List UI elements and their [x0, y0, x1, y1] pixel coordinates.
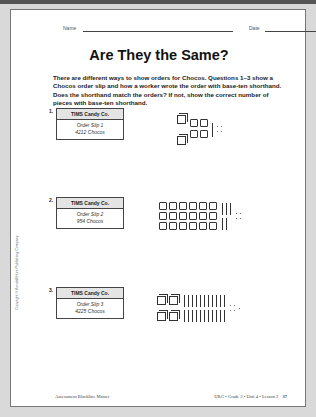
flat-icon — [159, 222, 167, 230]
bit-icon — [230, 305, 231, 306]
stick-icon — [200, 295, 201, 307]
footer-course: URG • Grade 3 • Unit 4 • Lesson 2 — [214, 394, 278, 399]
flat-icon — [159, 202, 167, 210]
flat-icon — [190, 119, 198, 127]
flat-icon — [179, 212, 187, 220]
page-title: Are They the Same? — [11, 47, 307, 63]
bit-icon — [240, 213, 241, 214]
stick-icon — [224, 310, 225, 322]
order-slip-1: TIMS Candy Co. Order Slip 1 4212 Chocos — [56, 108, 124, 140]
footer-left: Assessment Blackline Master — [55, 394, 109, 399]
order-slip-3: TIMS Candy Co. Order Slip 3 4225 Chocos — [56, 287, 124, 319]
bit-icon — [221, 126, 222, 127]
bit-icon — [217, 126, 218, 127]
order-slip-2: TIMS Candy Co. Order Slip 2 954 Chocos — [56, 197, 124, 229]
stick-icon — [212, 310, 213, 322]
stick-icon — [184, 295, 185, 307]
copyright-notice: Copyright © Kendall/Hunt Publishing Comp… — [15, 235, 19, 310]
flat-icon — [189, 212, 197, 220]
shorthand-1 — [177, 110, 297, 150]
page-number: 37 — [282, 394, 287, 399]
stick-icon — [226, 203, 227, 215]
pack-icon — [157, 296, 166, 305]
stick-icon — [224, 295, 225, 307]
stick-icon — [204, 310, 205, 322]
slip-company: TIMS Candy Co. — [57, 198, 123, 209]
flat-icon — [169, 202, 177, 210]
flat-icon — [209, 222, 217, 230]
bit-icon — [236, 218, 237, 219]
pack-icon — [157, 312, 166, 321]
stick-icon — [188, 310, 189, 322]
pack-icon — [169, 296, 178, 305]
date-label: Date — [249, 25, 260, 31]
question-number-2: 2. — [49, 197, 53, 203]
stick-icon — [220, 310, 221, 322]
flat-icon — [200, 119, 208, 127]
flat-icon — [189, 202, 197, 210]
stick-icon — [222, 203, 223, 215]
pack-icon — [177, 115, 186, 124]
worksheet-page: Name Date Are They the Same? There are d… — [10, 9, 306, 407]
stick-icon — [192, 310, 193, 322]
stick-icon — [230, 203, 231, 215]
flat-icon — [169, 222, 177, 230]
stick-icon — [212, 295, 213, 307]
slip-company: TIMS Candy Co. — [57, 288, 123, 299]
bit-icon — [234, 305, 235, 306]
shorthand-2 — [159, 200, 299, 240]
question-number-1: 1. — [49, 108, 53, 114]
flat-icon — [169, 212, 177, 220]
top-edge — [0, 0, 316, 4]
stick-icon — [192, 295, 193, 307]
stick-icon — [216, 295, 217, 307]
stick-icon — [196, 310, 197, 322]
stick-icon — [196, 295, 197, 307]
bit-icon — [234, 310, 235, 311]
name-label: Name — [63, 25, 76, 31]
slip-title: Order Slip 3 — [57, 301, 123, 308]
stick-icon — [226, 218, 227, 230]
stick-icon — [188, 295, 189, 307]
flat-icon — [199, 202, 207, 210]
flat-icon — [200, 130, 208, 138]
footer-right: URG • Grade 3 • Unit 4 • Lesson 237 — [214, 394, 287, 399]
pack-icon — [169, 312, 178, 321]
flat-icon — [199, 212, 207, 220]
stick-icon — [200, 310, 201, 322]
name-field[interactable] — [83, 31, 233, 32]
bit-icon — [240, 218, 241, 219]
stick-icon — [204, 295, 205, 307]
stick-icon — [216, 310, 217, 322]
instructions: There are different ways to show orders … — [53, 74, 289, 108]
stick-icon — [184, 310, 185, 322]
stick-icon — [222, 218, 223, 230]
stick-icon — [208, 295, 209, 307]
question-number-3: 3. — [49, 287, 53, 293]
slip-title: Order Slip 2 — [57, 211, 123, 218]
flat-icon — [209, 202, 217, 210]
flat-icon — [179, 202, 187, 210]
flat-icon — [179, 222, 187, 230]
slip-company: TIMS Candy Co. — [57, 109, 123, 120]
stick-icon — [208, 310, 209, 322]
flat-icon — [189, 222, 197, 230]
bit-icon — [236, 213, 237, 214]
flat-icon — [209, 212, 217, 220]
shorthand-3 — [157, 290, 297, 330]
date-field[interactable] — [265, 31, 316, 32]
pack-icon — [177, 136, 186, 145]
stick-icon — [220, 295, 221, 307]
flat-icon — [159, 212, 167, 220]
flat-icon — [199, 222, 207, 230]
slip-order: 4212 Chocos — [57, 129, 123, 136]
bit-icon — [217, 131, 218, 132]
slip-title: Order Slip 1 — [57, 122, 123, 129]
flat-icon — [190, 130, 198, 138]
bit-icon — [239, 308, 240, 309]
slip-order: 4225 Chocos — [57, 308, 123, 315]
bit-icon — [221, 131, 222, 132]
stick-icon — [212, 123, 213, 137]
bit-icon — [230, 310, 231, 311]
slip-order: 954 Chocos — [57, 218, 123, 225]
